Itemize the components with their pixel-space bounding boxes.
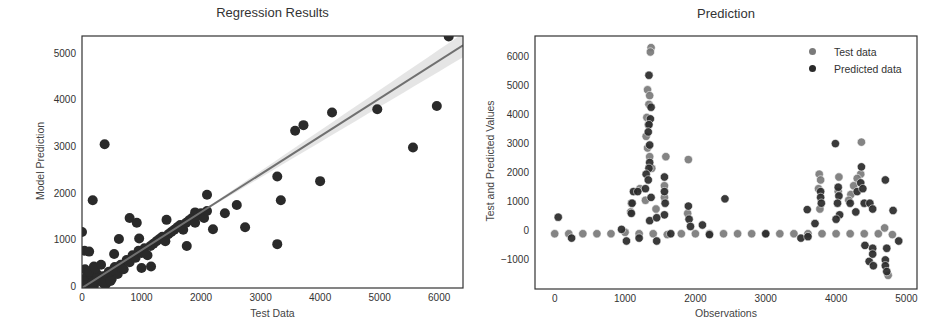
y-tick-label: 5000 [487, 80, 529, 91]
prediction-panel: Prediction Observations Test and Predict… [475, 0, 951, 335]
x-tick-label: 5000 [886, 293, 926, 304]
y-axis-label: Test and Predicted Values [484, 81, 496, 241]
chart-title: Regression Results [82, 5, 463, 20]
x-tick-label: 5000 [360, 292, 400, 303]
y-tick-label: 5000 [34, 48, 76, 59]
x-tick-label: 3000 [746, 293, 786, 304]
y-tick-label: 1000 [487, 196, 529, 207]
legend-label: Test data [834, 46, 877, 58]
y-tick-label: 1000 [34, 234, 76, 245]
x-tick-label: 2000 [675, 293, 715, 304]
x-tick-label: 0 [62, 292, 102, 303]
y-axis-label: Model Prediction [34, 101, 46, 221]
y-tick-label: 0 [34, 281, 76, 292]
x-tick-label: 3000 [241, 292, 281, 303]
x-tick-label: 4000 [816, 293, 856, 304]
x-axis-label: Test Data [82, 307, 463, 319]
y-tick-label: 0 [487, 225, 529, 236]
y-tick-label: 4000 [34, 94, 76, 105]
legend: Test data Predicted data [809, 43, 902, 77]
x-tick-label: 1000 [605, 293, 645, 304]
y-tick-label: 2000 [487, 167, 529, 178]
x-tick-label: 6000 [419, 292, 459, 303]
legend-marker-icon [809, 65, 816, 72]
y-tick-label: 3000 [34, 141, 76, 152]
y-tick-label: −1000 [487, 254, 529, 265]
legend-label: Predicted data [834, 63, 902, 75]
legend-item-test-data: Test data [809, 43, 902, 60]
y-tick-label: 3000 [487, 138, 529, 149]
legend-marker-icon [809, 48, 816, 55]
y-tick-label: 4000 [487, 109, 529, 120]
legend-item-predicted-data: Predicted data [809, 60, 902, 77]
x-tick-label: 4000 [300, 292, 340, 303]
y-tick-label: 2000 [34, 188, 76, 199]
x-tick-label: 0 [535, 293, 575, 304]
x-tick-label: 2000 [181, 292, 221, 303]
x-axis-label: Observations [535, 307, 917, 319]
regression-results-panel: Regression Results Test Data Model Predi… [0, 0, 475, 335]
chart-title: Prediction [535, 6, 917, 21]
y-tick-label: 6000 [487, 51, 529, 62]
x-tick-label: 1000 [122, 292, 162, 303]
